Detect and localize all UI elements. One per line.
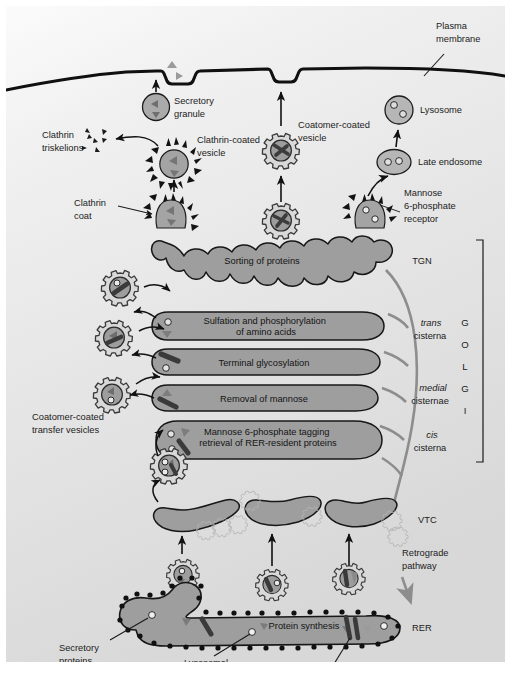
lysosome-label: Lysosome bbox=[420, 105, 462, 115]
rer-label: RER bbox=[412, 623, 432, 633]
tgn-side-label: TGN bbox=[412, 256, 432, 266]
golgi-letter-i: I bbox=[464, 405, 467, 416]
trans-cisterna-italic-label: trans bbox=[421, 318, 442, 328]
golgi-letter-g2: G bbox=[461, 383, 468, 394]
cis-cisterna-label: cisterna bbox=[414, 443, 447, 453]
cell-trafficking-diagram: Plasma membrane Secretory granule Clathr… bbox=[6, 6, 505, 662]
trans-cisterna-label: cisterna bbox=[414, 331, 447, 341]
lysosomal-proteins-label: Lysosomal proteins bbox=[184, 658, 231, 662]
vtc-label: VTC bbox=[418, 515, 437, 525]
cisterna-medial-upper-function-text: Terminal glycosylation bbox=[219, 358, 310, 368]
cis-cisterna-italic-label: cis bbox=[426, 430, 438, 440]
medial-cisternae-label: cisternae bbox=[411, 396, 449, 406]
late-endosome[interactable] bbox=[377, 150, 411, 175]
rer-function-text: Protein synthesis bbox=[269, 621, 340, 631]
figure-canvas: Plasma membrane Secretory granule Clathr… bbox=[0, 0, 511, 682]
cisterna-medial-lower-function-text: Removal of mannose bbox=[220, 394, 308, 404]
medial-cisternae-italic-label: medial bbox=[419, 383, 447, 393]
late-endosome-label: Late endosome bbox=[418, 157, 482, 167]
secretory-granule[interactable] bbox=[143, 94, 170, 121]
lysosome[interactable] bbox=[385, 96, 413, 124]
golgi-letter-o: O bbox=[461, 339, 468, 350]
tgn-function-text: Sorting of proteins bbox=[224, 256, 300, 266]
cisterna-cis-function-text: Mannose 6-phosphate tagging retrieval of… bbox=[199, 427, 337, 448]
golgi-letter-l: L bbox=[462, 361, 468, 372]
golgi-letter-g1: G bbox=[461, 317, 468, 328]
